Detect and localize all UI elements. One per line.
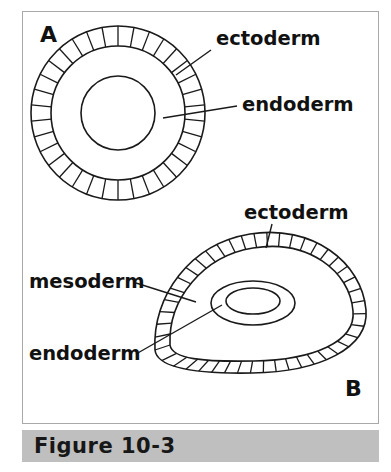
cell-divider <box>178 143 196 152</box>
panel-letter-a: A <box>40 22 57 47</box>
cell-divider <box>185 105 205 107</box>
cell-divider <box>170 288 184 293</box>
cell-divider <box>229 240 235 253</box>
cell-divider <box>279 233 280 247</box>
cell-divider <box>195 259 206 269</box>
cell-divider <box>310 243 317 255</box>
cell-divider <box>153 170 164 187</box>
cell-divider <box>286 359 290 370</box>
cell-divider <box>206 251 216 262</box>
cell-divider <box>34 89 53 94</box>
cell-divider <box>130 179 134 199</box>
gut-cavity <box>226 288 280 314</box>
cell-divider <box>173 357 186 366</box>
cell-divider <box>328 347 338 354</box>
cell-divider <box>155 345 170 350</box>
cell-divider <box>72 39 83 56</box>
cell-divider <box>300 238 305 251</box>
panel-b: ectodermmesodermendodermB <box>29 201 366 401</box>
cell-divider <box>337 341 348 347</box>
leader-line-endoderm <box>163 106 237 118</box>
cell-divider <box>164 300 179 303</box>
cell-divider <box>142 175 149 194</box>
cell-divider <box>237 361 241 373</box>
cell-divider <box>142 32 149 51</box>
cell-divider <box>217 245 225 257</box>
cell-divider <box>153 39 164 56</box>
cell-divider <box>289 235 292 248</box>
label-ectoderm: ectoderm <box>216 27 321 50</box>
cell-divider <box>318 351 327 360</box>
label-mesoderm: mesoderm <box>29 270 145 293</box>
cell-divider <box>34 131 53 136</box>
cell-divider <box>352 301 365 303</box>
cell-divider <box>241 236 246 250</box>
cell-divider <box>320 249 328 259</box>
cell-divider <box>344 277 356 283</box>
cell-divider <box>59 163 72 178</box>
label-endoderm: endoderm <box>29 342 141 365</box>
cell-divider <box>177 277 190 283</box>
cell-divider <box>349 288 361 292</box>
cell-divider <box>182 131 201 136</box>
cell-divider <box>59 49 72 64</box>
cell-divider <box>337 266 348 273</box>
leader-line-mesoderm <box>136 283 196 302</box>
cell-divider <box>49 61 65 73</box>
cell-divider <box>178 74 196 83</box>
label-ectoderm: ectoderm <box>244 201 349 224</box>
cell-divider <box>102 27 106 47</box>
figure-page: ectodermendodermA ectodermmesodermendode… <box>0 0 391 472</box>
cell-divider <box>296 357 301 368</box>
cell-divider <box>87 32 94 51</box>
cell-divider <box>163 163 176 178</box>
cell-divider <box>40 143 58 152</box>
endoderm-ring <box>51 46 185 180</box>
cell-divider <box>157 323 172 324</box>
mesoderm-region <box>170 246 353 361</box>
cell-divider <box>199 360 209 371</box>
cell-divider <box>160 312 175 313</box>
figure-caption: Figure 10-3 <box>34 432 334 460</box>
leader-line-endoderm <box>136 305 222 354</box>
cell-divider <box>163 49 176 64</box>
ectoderm-cell-spokes <box>31 26 204 200</box>
cell-divider <box>102 179 106 199</box>
cell-divider <box>275 360 277 372</box>
cell-divider <box>31 119 51 121</box>
cell-divider <box>186 268 198 276</box>
cell-divider <box>49 153 65 165</box>
cell-divider <box>87 175 94 194</box>
panel-letter-b: B <box>345 376 362 401</box>
cell-divider <box>307 354 314 364</box>
cell-divider <box>225 361 231 373</box>
cell-divider <box>329 257 338 266</box>
cell-divider <box>182 89 201 94</box>
cell-divider <box>31 105 51 107</box>
cell-divider <box>345 334 357 338</box>
blastocoel-cavity <box>81 76 155 150</box>
panel-a: ectodermendodermA <box>31 22 354 200</box>
cell-divider <box>254 233 257 247</box>
cell-divider <box>72 170 83 187</box>
cell-divider <box>162 353 177 360</box>
cell-divider <box>186 359 198 369</box>
label-endoderm: endoderm <box>242 93 354 116</box>
cell-divider <box>250 361 252 373</box>
embryo-diagram: ectodermendodermA ectodermmesodermendode… <box>0 0 391 472</box>
cell-divider <box>351 325 364 327</box>
cell-divider <box>212 361 220 372</box>
cell-divider <box>171 153 187 165</box>
cell-divider <box>171 61 187 73</box>
cell-divider <box>185 119 205 121</box>
ectoderm-outer-circle <box>31 26 205 200</box>
cell-divider <box>40 74 58 83</box>
cell-divider <box>130 27 134 47</box>
